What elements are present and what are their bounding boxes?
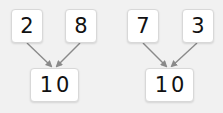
part-box-right: 8 [65, 9, 97, 43]
arrow-8-to-10 [57, 43, 80, 66]
arrow-3-to-10 [172, 43, 197, 66]
whole-value: 10 [155, 73, 188, 97]
part-value: 8 [74, 14, 87, 38]
part-value: 7 [136, 14, 149, 38]
part-box-left: 2 [11, 9, 43, 43]
whole-value: 10 [40, 73, 73, 97]
part-value: 2 [20, 14, 33, 38]
part-box-right: 3 [182, 9, 214, 43]
arrow-7-to-10 [143, 43, 166, 66]
arrow-2-to-10 [27, 43, 51, 66]
part-value: 3 [191, 14, 204, 38]
part-box-left: 7 [127, 9, 159, 43]
whole-box: 10 [145, 68, 194, 102]
whole-box: 10 [30, 68, 79, 102]
